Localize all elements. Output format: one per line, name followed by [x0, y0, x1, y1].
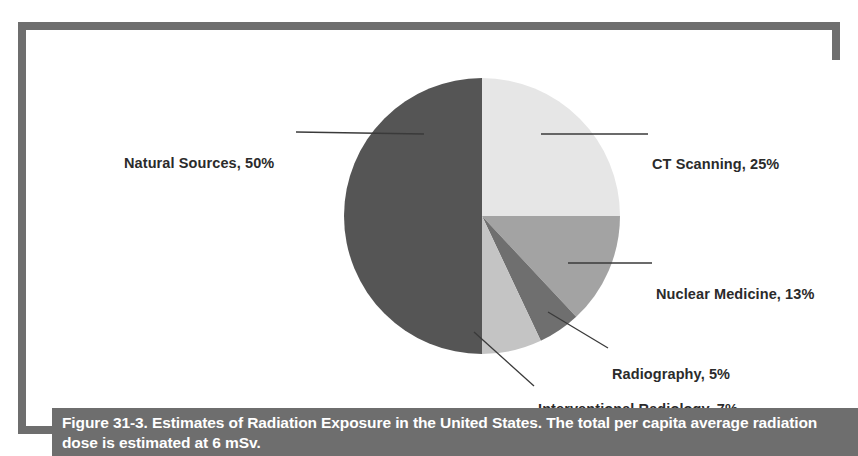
pie-label-ct-scanning: CT Scanning, 25%: [652, 156, 779, 172]
figure-caption-band: Figure 31-3. Estimates of Radiation Expo…: [52, 408, 858, 456]
pie-slice-ct-scanning[interactable]: [482, 78, 620, 216]
pie-chart-plot-area: Natural Sources, 50% CT Scanning, 25% Nu…: [52, 60, 858, 408]
pie-slice-natural-sources[interactable]: [344, 78, 482, 354]
figure-caption-text: Figure 31-3. Estimates of Radiation Expo…: [62, 413, 848, 453]
pie-label-nuclear-medicine: Nuclear Medicine, 13%: [656, 286, 814, 302]
pie-label-radiography: Radiography, 5%: [612, 366, 730, 382]
pie-chart-svg: [52, 60, 858, 408]
figure-frame: Natural Sources, 50% CT Scanning, 25% Nu…: [18, 22, 840, 434]
pie-label-interventional-radiology: Interventional Radiology, 7%: [538, 401, 738, 408]
pie-label-natural-sources: Natural Sources, 50%: [124, 155, 274, 171]
